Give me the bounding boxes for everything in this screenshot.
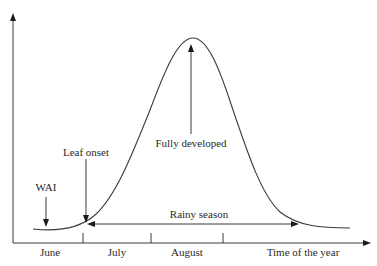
- rainy-season-left-arrowhead-icon: [87, 221, 95, 227]
- month-label-july: July: [108, 246, 127, 258]
- leaf-onset-arrow: [83, 159, 89, 223]
- rainy-season-label: Rainy season: [170, 208, 229, 220]
- x-axis-label: Time of the year: [267, 246, 340, 258]
- wai-arrowhead-icon: [43, 219, 49, 227]
- leaf-onset-arrowhead-icon: [83, 215, 89, 223]
- month-label-august: August: [171, 246, 203, 258]
- y-axis: [10, 13, 16, 243]
- fully-developed-label: Fully developed: [155, 137, 227, 149]
- x-axis: [13, 233, 371, 246]
- x-axis-arrowhead-icon: [363, 240, 371, 246]
- y-axis-arrowhead-icon: [10, 13, 16, 21]
- phenology-diagram: WAI Leaf onset Fully developed Rainy sea…: [0, 0, 377, 266]
- wai-arrow: [43, 197, 49, 227]
- month-label-june: June: [40, 246, 60, 258]
- fully-developed-arrowhead-icon: [188, 44, 194, 52]
- fully-developed-arrow: [188, 44, 194, 134]
- leaf-onset-label: Leaf onset: [63, 146, 109, 158]
- rainy-season-arrow: [87, 221, 299, 227]
- wai-label: WAI: [36, 181, 57, 193]
